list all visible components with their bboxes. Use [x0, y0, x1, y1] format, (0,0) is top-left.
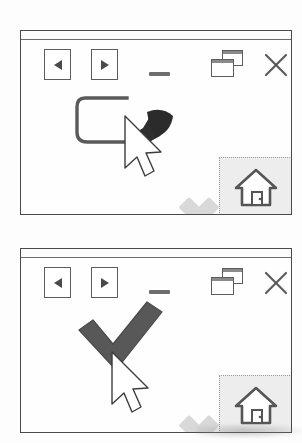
window-panel-in-progress [20, 30, 292, 215]
home-button[interactable] [219, 157, 291, 214]
window-panel-complete [20, 248, 292, 433]
checkmark-outline-path [77, 98, 131, 142]
home-icon [233, 384, 279, 426]
figure-container [0, 0, 302, 443]
window-titlebar [21, 31, 291, 40]
close-x-target-ghost [173, 192, 225, 214]
x-mark-icon [173, 192, 225, 214]
scan-artifact-smudge [196, 424, 302, 438]
mouse-pointer-icon [112, 352, 148, 412]
window-canvas [21, 258, 291, 432]
window-titlebar [21, 249, 291, 258]
window-canvas [21, 40, 291, 214]
home-icon [233, 166, 279, 208]
